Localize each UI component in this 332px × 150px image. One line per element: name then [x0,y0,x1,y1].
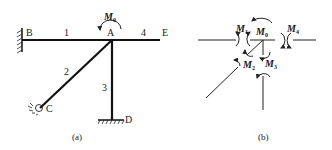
moment-m4-arrow-left-icon [281,33,285,48]
caption-b: (b) [258,132,269,142]
moment-label-m2: M2 [242,59,255,71]
node-label-e: E [162,27,168,38]
joint-diagonal [247,40,263,55]
moment-m1-arrow-left-icon [236,32,239,46]
moment-label-m1: M1 [235,23,248,35]
moment-m2-arrow-member-icon [234,60,240,66]
moment-label-m4: M4 [286,23,299,35]
fixed-support-d [98,120,124,124]
pinned-support-c [28,103,43,115]
node-label-c: C [46,103,53,114]
member-label-4: 4 [141,27,146,38]
figure-a: B 1 A 4 E 2 3 C D M0 (a) [17,11,168,142]
member-label-2: 2 [64,66,69,77]
structural-diagram: B 1 A 4 E 2 3 C D M0 (a) [0,0,332,150]
applied-moment-label: M0 [103,11,116,23]
member-2 [40,40,112,108]
node-label-a: A [107,27,115,38]
member-label-1: 1 [64,27,69,38]
caption-a: (a) [72,132,82,142]
node-label-b: B [26,27,33,38]
fixed-support-b [17,28,22,53]
member-label-3: 3 [102,82,107,93]
moment-label-m0: M0 [255,26,268,38]
moment-m4-arrow-right-icon [287,33,291,48]
node-label-d: D [125,114,132,125]
moment-label-m3: M3 [264,58,277,70]
figure-b: M1 M0 M4 M2 M3 (b) [198,18,316,142]
moment-m0-arrow-icon [252,18,272,23]
member-2-segment [206,67,238,98]
